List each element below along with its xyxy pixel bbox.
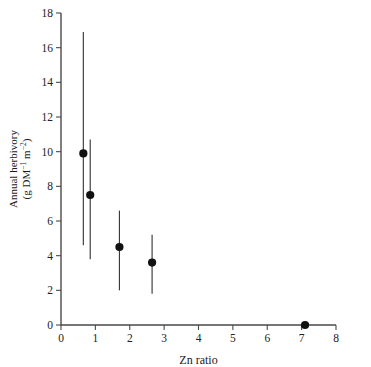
x-tick-label-8: 8: [333, 332, 339, 344]
y-tick-label-10: 10: [42, 146, 54, 158]
data-point-2: [86, 191, 94, 199]
y-tick-label-18: 18: [42, 7, 54, 19]
x-tick-label-3: 3: [161, 332, 167, 344]
axis-lines: [61, 13, 336, 325]
x-axis-title: Zn ratio: [179, 353, 217, 367]
x-tick-label-5: 5: [230, 332, 236, 344]
y-tick-label-0: 0: [47, 319, 53, 331]
y-axis-title: Annual herbivory(g DM−1 m−2): [7, 130, 33, 208]
y-tick-label-12: 12: [42, 111, 54, 123]
y-tick-label-2: 2: [47, 284, 53, 296]
x-tick-label-4: 4: [196, 332, 202, 344]
data-point-3: [115, 243, 123, 251]
data-point-1: [79, 149, 87, 157]
x-tick-label-6: 6: [264, 332, 270, 344]
y-tick-label-14: 14: [42, 76, 54, 88]
x-tick-label-7: 7: [299, 332, 305, 344]
y-tick-label-8: 8: [47, 180, 53, 192]
x-tick-label-2: 2: [127, 332, 133, 344]
y-tick-label-4: 4: [47, 250, 53, 262]
scatter-plot-canvas: 024681012141618012345678Zn ratioAnnual h…: [0, 0, 371, 367]
x-tick-label-0: 0: [58, 332, 64, 344]
data-point-4: [148, 259, 156, 267]
y-tick-label-6: 6: [47, 215, 53, 227]
y-tick-label-16: 16: [42, 42, 54, 54]
x-tick-label-1: 1: [93, 332, 99, 344]
y-axis-title-line1: Annual herbivory: [7, 130, 19, 208]
data-point-5: [301, 321, 309, 329]
y-axis-title-line2: (g DM−1 m−2): [19, 138, 33, 199]
chart-figure: 024681012141618012345678Zn ratioAnnual h…: [0, 0, 371, 367]
